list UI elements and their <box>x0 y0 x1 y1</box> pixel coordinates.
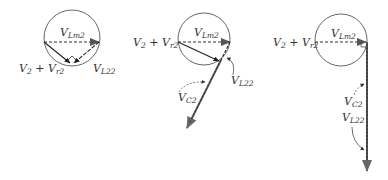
diagram-3: VLm2 V2 + Vr2 VC2 VL22 <box>273 14 367 171</box>
label-v2-plus-vr2: V2 + Vr2 <box>273 36 318 50</box>
label-vc2: VC2 <box>178 91 197 105</box>
label-vc2: VC2 <box>344 95 363 109</box>
vl-pointer-curve <box>352 127 364 150</box>
label-vlm: VLm2 <box>194 26 219 40</box>
v2vr-phasor <box>178 42 219 61</box>
label-vl22: VL22 <box>342 111 365 125</box>
label-vl22: VL22 <box>231 74 254 88</box>
phasor-diagrams: VLm2 V2 + Vr2 VL22 VLm2 V2 + Vr2 VL22 VC… <box>0 0 388 180</box>
label-vl22: VL22 <box>93 62 116 76</box>
label-vlm: VLm2 <box>331 27 356 41</box>
vc-pointer-curve <box>354 84 364 95</box>
diagram-1: VLm2 V2 + Vr2 VL22 <box>19 10 116 76</box>
label-v2-plus-vr2: V2 + Vr2 <box>133 36 178 50</box>
vl-phasor <box>74 42 99 63</box>
label-vlm: VLm2 <box>60 26 85 40</box>
right-angle-mark <box>361 42 366 47</box>
diagram-2: VLm2 V2 + Vr2 VL22 VC2 <box>133 13 254 128</box>
right-angle-mark <box>68 56 76 60</box>
vl-pointer-curve <box>227 58 234 75</box>
label-v2-plus-vr2: V2 + Vr2 <box>19 62 64 76</box>
